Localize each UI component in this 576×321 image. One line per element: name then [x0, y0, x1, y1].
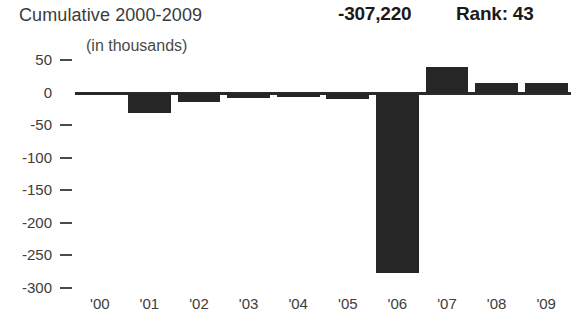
cumulative-value: -307,220: [338, 2, 411, 25]
bar-03[interactable]: [227, 93, 270, 98]
y-tick-mark: [60, 124, 72, 126]
bar-04[interactable]: [277, 93, 320, 98]
y-tick-label: -300: [8, 280, 52, 295]
bar-07[interactable]: [426, 67, 469, 92]
bar-08[interactable]: [475, 83, 518, 92]
y-tick-mark: [60, 189, 72, 191]
bar-06[interactable]: [376, 93, 419, 273]
y-tick-label: -100: [8, 150, 52, 165]
bar-09[interactable]: [525, 83, 568, 92]
x-tick-label: '01: [125, 296, 175, 312]
y-tick-label: 50: [8, 52, 52, 67]
x-tick-label: '04: [273, 296, 323, 312]
rank-badge: Rank: 43: [456, 2, 534, 25]
x-tick-label: '06: [373, 296, 423, 312]
y-tick-label: -250: [8, 247, 52, 262]
x-tick-label: '09: [521, 296, 571, 312]
x-tick-label: '08: [472, 296, 522, 312]
y-tick-mark: [60, 254, 72, 256]
x-tick-label: '07: [422, 296, 472, 312]
x-tick-label: '00: [75, 296, 125, 312]
y-tick-label: 0: [8, 85, 52, 100]
y-tick-label: -50: [8, 117, 52, 132]
bar-05[interactable]: [326, 93, 369, 100]
y-tick-label: -200: [8, 215, 52, 230]
bar-01[interactable]: [128, 93, 171, 113]
x-tick-label: '02: [174, 296, 224, 312]
plot-area: [75, 60, 571, 288]
y-tick-mark: [60, 287, 72, 289]
bar-00[interactable]: [78, 93, 121, 95]
bar-02[interactable]: [178, 93, 221, 103]
x-tick-label: '05: [323, 296, 373, 312]
y-tick-mark: [60, 222, 72, 224]
y-tick-mark: [60, 157, 72, 159]
page-title: Cumulative 2000-2009: [19, 4, 202, 26]
chart-subtitle: (in thousands): [86, 36, 187, 56]
y-tick-mark: [60, 59, 72, 61]
x-tick-label: '03: [224, 296, 274, 312]
chart-page: Cumulative 2000-2009 -307,220 Rank: 43 (…: [0, 0, 576, 321]
y-tick-label: -150: [8, 182, 52, 197]
